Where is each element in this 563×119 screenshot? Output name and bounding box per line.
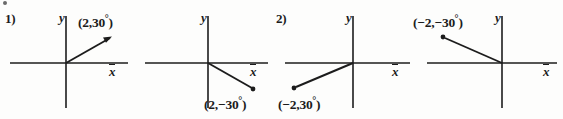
point-label-4-text: (−2,−30 bbox=[413, 15, 455, 30]
group-label-2: 2) bbox=[276, 11, 286, 27]
ray-2 bbox=[208, 63, 252, 88]
panel-3: 2) y x (−2,30°) bbox=[275, 0, 415, 119]
ray-1 bbox=[66, 38, 110, 63]
point-label-3-close: ) bbox=[316, 97, 320, 112]
point-label-1: (2,30°) bbox=[78, 13, 113, 31]
x-axis-label-3: x bbox=[392, 64, 398, 79]
panel-1: 1) y x (2,30°) bbox=[0, 0, 140, 119]
point-label-2-text: (2,−30 bbox=[204, 97, 239, 112]
y-axis-label-2: y bbox=[201, 10, 207, 26]
y-axis-label-1: y bbox=[59, 10, 65, 26]
panel-4: y x (−2,−30°) bbox=[415, 0, 563, 119]
ray-endpoint-dot-3 bbox=[292, 86, 297, 91]
point-label-2: (2,−30°) bbox=[204, 95, 246, 113]
y-axis-label-4: y bbox=[495, 10, 501, 26]
ray-3 bbox=[296, 63, 353, 87]
panel-2: y x (2,−30°) bbox=[140, 0, 275, 119]
group-label-1: 1) bbox=[5, 11, 15, 27]
ray-endpoint-dot-4 bbox=[441, 35, 446, 40]
point-label-1-text: (2,30 bbox=[78, 15, 105, 30]
point-label-4: (−2,−30°) bbox=[413, 13, 463, 31]
figure-canvas: 1) y x (2,30°) y x (2,−30°) bbox=[0, 0, 563, 119]
ray-endpoint-dot-2 bbox=[251, 87, 256, 92]
x-axis-label-4: x bbox=[543, 64, 549, 79]
ray-4 bbox=[445, 38, 502, 63]
point-label-3: (−2,30°) bbox=[278, 95, 320, 113]
point-label-4-close: ) bbox=[458, 15, 462, 30]
point-label-2-close: ) bbox=[242, 97, 246, 112]
x-axis-label-2: x bbox=[250, 64, 256, 79]
panel-1-plot bbox=[0, 0, 140, 119]
point-label-3-text: (−2,30 bbox=[278, 97, 313, 112]
point-label-1-close: ) bbox=[108, 15, 112, 30]
x-axis-label-1: x bbox=[109, 64, 115, 79]
y-axis-label-3: y bbox=[346, 10, 352, 26]
